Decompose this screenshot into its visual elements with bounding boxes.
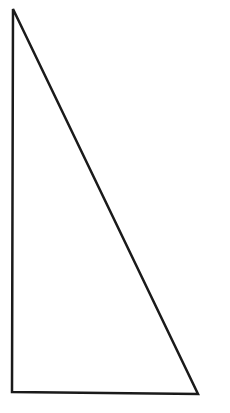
right-triangle xyxy=(12,9,198,394)
diagram-canvas xyxy=(0,0,230,413)
